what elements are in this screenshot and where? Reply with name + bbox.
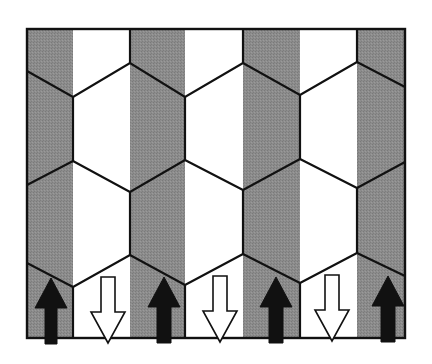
diagram-canvas xyxy=(0,0,432,364)
hexagonal-tiling-diagram xyxy=(0,0,432,364)
